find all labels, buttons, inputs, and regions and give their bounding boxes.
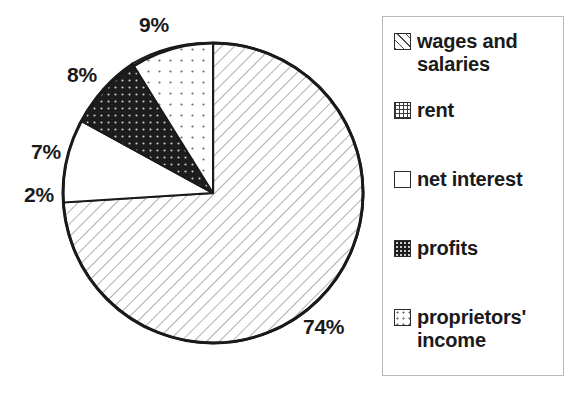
legend-label-proprietors-income: proprietors' income [417, 306, 560, 352]
pie-plot-area: 9% 8% 7% 2% 74% [0, 0, 376, 395]
chart-legend: wages and salaries rent net interest pro… [382, 16, 564, 376]
legend-label-profits: profits [417, 237, 478, 260]
legend-item-proprietors-income[interactable]: proprietors' income [394, 306, 560, 352]
legend-label-wages-and-salaries: wages and salaries [417, 30, 560, 76]
legend-item-net-interest[interactable]: net interest [394, 168, 560, 191]
pie-label-proprietors-income: 9% [139, 14, 169, 35]
pie-label-wages-and-salaries: 74% [303, 316, 344, 337]
sparse-dotted-swatch-icon [394, 309, 411, 326]
legend-item-wages-and-salaries[interactable]: wages and salaries [394, 30, 560, 76]
black-dotted-swatch-icon [394, 240, 411, 257]
legend-item-profits[interactable]: profits [394, 237, 560, 260]
pie-label-rent: 2% [24, 184, 54, 205]
diagonal-hatch-swatch-icon [394, 33, 411, 50]
legend-label-net-interest: net interest [417, 168, 522, 191]
pie-label-net-interest: 7% [31, 141, 61, 162]
legend-list: wages and salaries rent net interest pro… [383, 17, 563, 375]
empty-white-swatch-icon [394, 171, 411, 188]
crosshatch-grid-swatch-icon [394, 102, 411, 119]
pie-chart-figure: 9% 8% 7% 2% 74% wages and salaries rent … [0, 0, 576, 395]
legend-label-rent: rent [417, 99, 454, 122]
pie-label-profits: 8% [67, 64, 97, 85]
legend-item-rent[interactable]: rent [394, 99, 560, 122]
